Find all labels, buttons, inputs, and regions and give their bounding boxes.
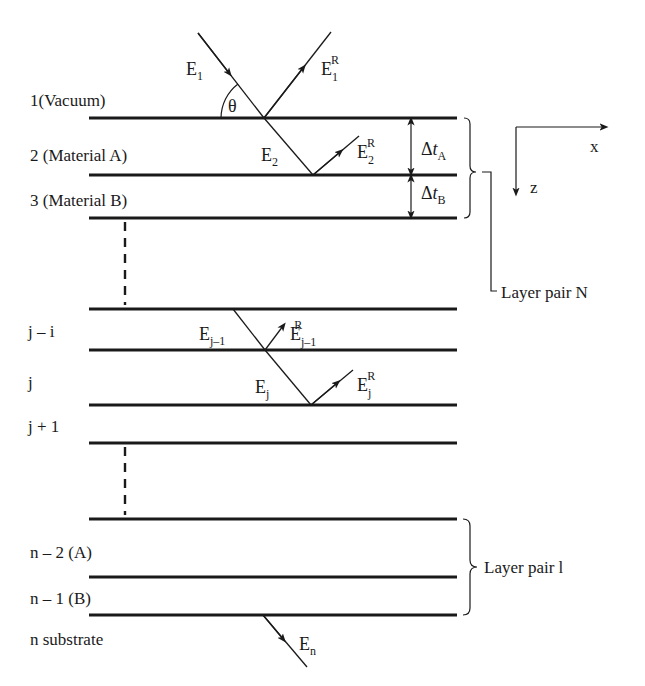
x-axis-label: x: [590, 137, 599, 156]
brace-layer-pair-n: [464, 118, 476, 218]
label-layer-pair-n: Layer pair N: [501, 283, 588, 302]
layer-label-n-1: n – 1 (B): [30, 589, 91, 608]
thickness-indicators: ΔtA ΔtB: [411, 121, 447, 215]
layer-label-j-plus-1: j + 1: [27, 417, 59, 436]
label-e1r: E1R: [321, 53, 339, 84]
label-ej-minus-1-r: Ej–1R: [290, 318, 316, 349]
layer-label-j: j: [27, 373, 33, 392]
layer-label-material-b: 3 (Material B): [30, 191, 127, 210]
reflected-arrow-e2r: [313, 152, 340, 175]
label-layer-pair-1: Layer pair l: [484, 558, 564, 577]
label-e2r: E2R: [357, 136, 375, 167]
field-labels: E1 θ E1R E2 E2R Ej–1 Ej–1R Ej EjR En: [186, 53, 375, 658]
layer-label-material-a: 2 (Material A): [30, 146, 127, 165]
layer-label-j-i: j – i: [27, 322, 55, 341]
transmitted-arrow-en: [263, 615, 283, 639]
reflected-arrow-ejr: [311, 383, 337, 405]
layer-label-n-2: n – 2 (A): [30, 543, 92, 562]
ray-ej: [265, 350, 311, 405]
label-delta-t-a: ΔtA: [421, 139, 447, 163]
reflected-arrow-e1r: [264, 68, 303, 118]
layer-label-substrate: n substrate: [30, 630, 103, 649]
label-delta-t-b: ΔtB: [421, 183, 446, 207]
label-en: En: [299, 634, 316, 658]
brace-layer-pair-1: [463, 519, 477, 615]
reflected-arrow-ej-minus-1-r: [265, 326, 283, 350]
layer-interfaces: [89, 118, 457, 615]
z-axis-label: z: [530, 178, 538, 197]
incident-arrow-e1: [198, 33, 229, 73]
label-e1: E1: [186, 59, 203, 83]
label-e2: E2: [261, 145, 278, 169]
leader-layer-pair-n: [482, 172, 497, 291]
label-ej: Ej: [255, 377, 269, 401]
multilayer-diagram: 1(Vacuum) 2 (Material A) 3 (Material B) …: [0, 0, 645, 686]
coordinate-axes: x z: [516, 127, 604, 197]
label-ejr: EjR: [357, 369, 375, 400]
label-ej-minus-1: Ej–1: [199, 324, 225, 348]
label-theta: θ: [228, 96, 237, 116]
ray-ej-minus-1: [233, 309, 265, 350]
layer-label-vacuum: 1(Vacuum): [30, 91, 106, 110]
layer-pair-groups: Layer pair N Layer pair l: [463, 118, 588, 615]
